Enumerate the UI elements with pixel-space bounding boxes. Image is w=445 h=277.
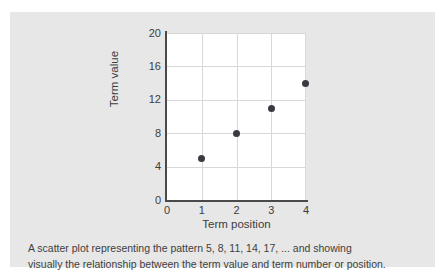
figure-caption: A scatter plot representing the pattern … (28, 240, 420, 272)
y-tick-label: 8 (135, 128, 161, 139)
y-tick-label: 20 (135, 28, 161, 39)
data-point (233, 130, 240, 137)
figure-card: Term value 0 4 8 12 16 20 (10, 12, 435, 267)
y-tick-label: 16 (135, 61, 161, 72)
gridline-vertical (237, 33, 238, 200)
y-tick-label: 12 (135, 94, 161, 105)
x-tick-label: 0 (157, 204, 177, 216)
caption-line: visually the relationship between the te… (28, 256, 420, 272)
x-axis-line (165, 200, 308, 202)
x-axis-title: Term position (167, 218, 306, 230)
data-point (198, 155, 205, 162)
data-point (268, 105, 275, 112)
gridline-vertical (305, 33, 306, 200)
gridline-vertical (202, 33, 203, 200)
y-axis-tick-labels: 0 4 8 12 16 20 (133, 33, 161, 200)
gridline-vertical (271, 33, 272, 200)
plot-area (167, 33, 306, 200)
y-axis-title: Term value (108, 34, 122, 124)
y-tick-label: 4 (135, 161, 161, 172)
x-tick-label: 4 (296, 204, 316, 216)
x-tick-label: 3 (261, 204, 281, 216)
scatter-chart: Term value 0 4 8 12 16 20 (10, 12, 435, 224)
x-tick-label: 2 (227, 204, 247, 216)
x-axis-tick-labels: 0 1 2 3 4 (167, 204, 306, 218)
x-tick-label: 1 (192, 204, 212, 216)
caption-line: A scatter plot representing the pattern … (28, 240, 420, 256)
data-point (302, 80, 309, 87)
